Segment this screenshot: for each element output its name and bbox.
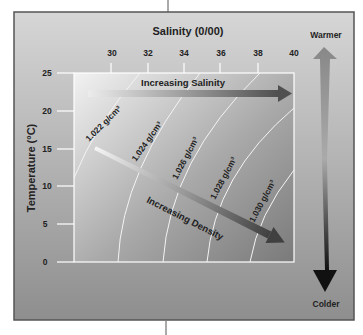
svg-text:34: 34 — [179, 48, 189, 58]
svg-text:20: 20 — [42, 106, 52, 116]
svg-text:10: 10 — [42, 181, 52, 191]
svg-text:30: 30 — [107, 48, 117, 58]
svg-text:32: 32 — [143, 48, 153, 58]
svg-text:5: 5 — [43, 219, 48, 229]
svg-text:38: 38 — [253, 48, 263, 58]
svg-text:40: 40 — [289, 48, 299, 58]
svg-text:15: 15 — [42, 144, 52, 154]
svg-text:25: 25 — [42, 68, 52, 78]
density-chart: 1.022 g/cm³ 1.024 g/cm³ 1.026 g/cm³ 1.02… — [0, 0, 363, 335]
svg-text:0: 0 — [43, 257, 48, 267]
increasing-salinity-label: Increasing Salinity — [141, 77, 226, 88]
svg-text:36: 36 — [216, 48, 226, 58]
y-axis-title: Temperature (°C) — [25, 123, 37, 212]
x-axis-title: Salinity (0/00) — [153, 25, 224, 37]
warmer-label: Warmer — [310, 30, 342, 40]
colder-label: Colder — [313, 299, 341, 309]
